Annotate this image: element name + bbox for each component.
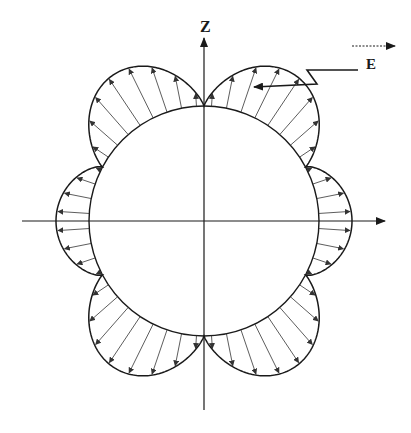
field-arrow: [96, 272, 100, 274]
field-e-label: E: [366, 56, 376, 73]
field-arrow: [226, 77, 232, 109]
field-arrow: [152, 68, 167, 112]
field-arrow: [90, 297, 118, 321]
field-arrow: [313, 258, 331, 264]
field-arrow: [77, 258, 95, 264]
field-arrow: [196, 94, 197, 106]
field-arrow: [96, 168, 100, 170]
field-arrow: [317, 243, 343, 248]
field-arrow: [129, 69, 153, 118]
field-arrow: [307, 272, 311, 274]
field-arrow: [175, 77, 181, 109]
field-arrow: [58, 229, 89, 231]
field-arrow: [96, 98, 128, 135]
field-arrow: [255, 324, 279, 373]
field-arrow: [58, 211, 89, 213]
field-arrow: [152, 330, 167, 374]
field-arrow: [313, 178, 331, 184]
field-arrow: [241, 68, 256, 112]
field-arrow: [290, 121, 318, 145]
field-arrow: [290, 297, 318, 321]
field-arrow: [90, 121, 118, 145]
field-arrow: [317, 193, 343, 198]
field-arrow: [255, 69, 279, 118]
field-arrow: [196, 336, 197, 348]
field-arrow: [65, 243, 91, 248]
leader-line-arrow: [254, 70, 358, 87]
field-arrow: [212, 94, 213, 106]
field-arrow: [280, 98, 312, 135]
field-pattern-diagram: [0, 0, 411, 433]
field-arrow: [175, 334, 181, 366]
field-arrow: [129, 324, 153, 373]
field-arrow: [280, 307, 312, 344]
field-arrow: [319, 211, 350, 213]
field-arrow: [319, 229, 350, 231]
field-arrow: [212, 336, 213, 348]
field-arrow: [226, 334, 232, 366]
field-arrow: [77, 178, 95, 184]
field-arrow: [241, 330, 256, 374]
z-axis-label: Z: [200, 18, 211, 36]
field-arrow: [65, 193, 91, 198]
field-arrow: [96, 307, 128, 344]
field-arrow: [307, 168, 311, 170]
axes: [22, 38, 385, 410]
